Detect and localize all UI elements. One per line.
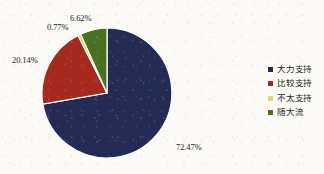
legend-item-support-moderate[interactable]: 比较支持 <box>268 77 320 91</box>
legend-label: 大力支持 <box>277 65 312 74</box>
value-label-support-low: 0.77% <box>47 23 68 32</box>
legend-swatch-icon <box>268 81 273 86</box>
legend-item-support-low[interactable]: 不太支持 <box>268 91 320 105</box>
legend-swatch-icon <box>268 96 273 101</box>
legend-label: 随大流 <box>277 108 303 117</box>
pie-chart-figure: 72.47% 20.14% 0.77% 6.62% 大力支持 比较支持 不太支持… <box>0 0 324 174</box>
legend-item-follow-crowd[interactable]: 随大流 <box>268 106 320 120</box>
legend-item-support-strong[interactable]: 大力支持 <box>268 62 320 76</box>
pie-chart-svg <box>41 27 173 159</box>
pie-chart-plot-area <box>41 27 173 159</box>
value-label-follow-crowd: 6.62% <box>70 14 91 23</box>
chart-legend: 大力支持 比较支持 不太支持 随大流 <box>268 62 320 120</box>
legend-swatch-icon <box>268 67 273 72</box>
value-label-support-strong: 72.47% <box>176 143 202 152</box>
value-label-support-moderate: 20.14% <box>12 56 38 65</box>
legend-label: 比较支持 <box>277 79 312 88</box>
legend-swatch-icon <box>268 110 273 115</box>
legend-label: 不太支持 <box>277 94 312 103</box>
